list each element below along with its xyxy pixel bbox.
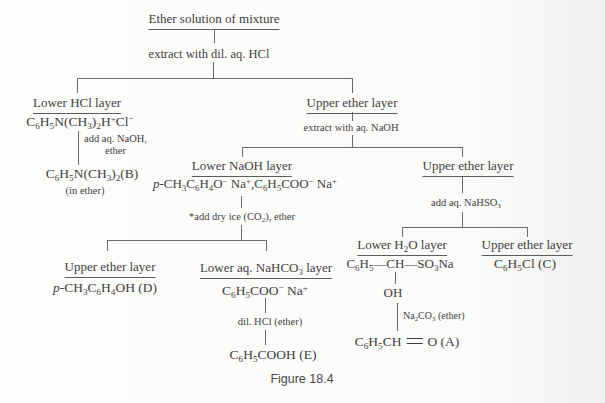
node-upper-ether-3-header: Upper ether layer bbox=[482, 238, 573, 256]
root-label: Ether solution of mixture bbox=[148, 12, 279, 30]
node-upper-ether-4-header: Upper ether layer bbox=[65, 260, 156, 278]
product-cresol-D: p-CH3C6H4OH (D) bbox=[53, 280, 157, 296]
reagent-dry-ice: *add dry ice (CO2), ether bbox=[189, 211, 295, 223]
branch-line-level2 bbox=[242, 147, 462, 148]
connector-vertical bbox=[352, 78, 353, 93]
connector-vertical bbox=[214, 30, 215, 43]
reagent-add-naoh: add aq. NaOH, ether bbox=[84, 133, 147, 157]
flowchart-figure: Ether solution of mixture extract with d… bbox=[0, 0, 605, 403]
node-lower-nahco3-header: Lower aq. NaHCO3 layer bbox=[200, 261, 332, 279]
node-root: Ether solution of mixture bbox=[148, 12, 279, 30]
node-upper-ether-1-header: Upper ether layer bbox=[307, 96, 398, 114]
node-lower-h2o-header: Lower H2O layer bbox=[357, 238, 447, 256]
product-chlorobenzene-C: C6H5Cl (C) bbox=[494, 256, 556, 272]
product-benzaldehyde-A: C6H5CHO (A) bbox=[355, 334, 460, 350]
connector-vertical bbox=[265, 298, 266, 313]
connector-vertical bbox=[78, 131, 79, 165]
formula-bisulfite-adduct: C6H5—CH—SO3Na bbox=[346, 257, 453, 272]
reagent-dil-hcl: dil. HCl (ether) bbox=[238, 316, 302, 328]
product-benzoic-acid-E: C6H5COOH (E) bbox=[230, 347, 317, 363]
product-dimethylaniline-B: C6H5N(CH3)2(B) bbox=[46, 166, 139, 182]
connector-vertical bbox=[462, 147, 463, 157]
branch-line-level3-left bbox=[107, 240, 266, 241]
connector-vertical bbox=[352, 135, 353, 147]
branch-line-level3-right bbox=[402, 227, 527, 228]
step-extract-naoh: extract with aq. NaOH bbox=[303, 122, 398, 134]
node-lower-hcl-header: Lower HCl layer bbox=[33, 96, 121, 114]
formula-phenoxide-benzoate: p-CH3C6H4O− Na+,C6H5COO− Na+ bbox=[153, 177, 337, 192]
step-extract-hcl: extract with dil. aq. HCl bbox=[149, 47, 270, 61]
group-oh: OH bbox=[384, 286, 403, 301]
reagent-na2co3: Na2CO3 (ether) bbox=[403, 310, 465, 322]
connector-vertical bbox=[241, 225, 242, 240]
formula-sodium-benzoate: C6H5COO− Na+ bbox=[222, 283, 308, 299]
connector-vertical bbox=[266, 240, 267, 251]
connector-vertical bbox=[462, 212, 463, 227]
node-upper-ether-2-header: Upper ether layer bbox=[423, 159, 514, 177]
connector-vertical bbox=[242, 147, 243, 157]
reagent-nahso3: add aq. NaHSO3 bbox=[431, 197, 501, 209]
connector-vertical bbox=[527, 227, 528, 237]
note-in-ether: (in ether) bbox=[66, 185, 105, 197]
branch-line-level1 bbox=[77, 78, 353, 79]
bond-line bbox=[395, 272, 396, 284]
connector-vertical bbox=[397, 303, 398, 331]
connector-vertical bbox=[265, 330, 266, 345]
node-lower-naoh-header: Lower NaOH layer bbox=[192, 159, 292, 177]
connector-vertical bbox=[402, 227, 403, 237]
formula-anilinium-chloride: C6H5N(CH3)2H+Cl− bbox=[26, 114, 134, 130]
connector-vertical bbox=[77, 78, 78, 93]
figure-caption: Figure 18.4 bbox=[270, 372, 333, 386]
connector-vertical bbox=[213, 62, 214, 78]
connector-vertical bbox=[107, 240, 108, 251]
connector-vertical bbox=[462, 177, 463, 193]
connector-vertical bbox=[241, 196, 242, 208]
